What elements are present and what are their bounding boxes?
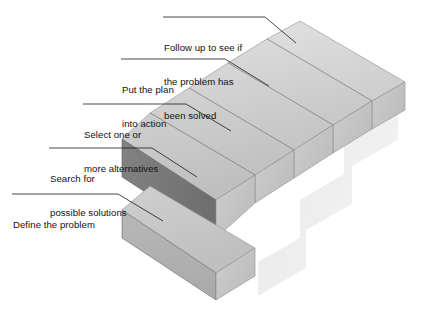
label-line: Select one or xyxy=(84,129,158,140)
label-line: the problem has xyxy=(164,76,242,87)
label-line: Search for xyxy=(50,173,127,184)
diagram-canvas: Follow up to see if the problem has been… xyxy=(0,0,430,325)
label-line: been solved xyxy=(164,110,242,121)
step-label-follow-up: Follow up to see if the problem has been… xyxy=(164,19,242,144)
step-label-define-problem: Define the problem xyxy=(13,196,95,253)
label-line: Define the problem xyxy=(13,219,95,230)
label-line: Put the plan xyxy=(122,84,174,95)
label-line: Follow up to see if xyxy=(164,42,242,53)
